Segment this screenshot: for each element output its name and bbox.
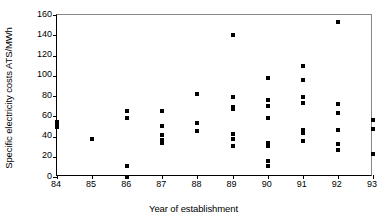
data-point [301, 64, 305, 68]
x-axis-tick-label: 93 [360, 180, 384, 189]
y-axis-tick-mark [53, 56, 57, 57]
y-axis-tick-label: 60 [24, 111, 52, 120]
data-point [231, 107, 235, 111]
data-point [231, 144, 235, 148]
data-point [160, 124, 164, 128]
y-axis-tick-mark [53, 137, 57, 138]
data-point [231, 33, 235, 37]
x-axis-tick-label: 91 [290, 180, 314, 189]
data-point [125, 164, 129, 168]
data-point [266, 76, 270, 80]
scatter-chart: Specific electricity costs ATS/MWh 02040… [0, 0, 387, 223]
data-point [371, 152, 375, 156]
y-axis-tick-label: 40 [24, 131, 52, 140]
data-point [195, 129, 199, 133]
y-axis-title: Specific electricity costs ATS/MWh [2, 8, 16, 188]
data-point [231, 137, 235, 141]
data-point [336, 111, 340, 115]
x-axis-tick-label: 92 [325, 180, 349, 189]
data-point [231, 95, 235, 99]
y-axis-tick-label: 140 [24, 30, 52, 39]
data-point [55, 125, 59, 129]
y-axis-tick-label: 160 [24, 10, 52, 19]
x-axis-tick-labels: 84858687888990919293 [56, 180, 376, 192]
x-axis-tick-label: 84 [44, 180, 68, 189]
y-axis-tick-mark [53, 15, 57, 16]
data-point [90, 137, 94, 141]
data-point [160, 109, 164, 113]
y-axis-tick-label: 80 [24, 91, 52, 100]
x-axis-tick-label: 88 [184, 180, 208, 189]
data-point [301, 139, 305, 143]
x-axis-tick-label: 90 [255, 180, 279, 189]
data-point [195, 92, 199, 96]
data-point [266, 164, 270, 168]
x-axis-title: Year of establishment [0, 203, 387, 214]
x-axis-tick-label: 89 [220, 180, 244, 189]
x-axis-tick-label: 86 [114, 180, 138, 189]
y-axis-tick-mark [53, 96, 57, 97]
y-axis-tick-mark [53, 157, 57, 158]
y-axis-tick-label: 120 [24, 50, 52, 59]
data-point [371, 118, 375, 122]
data-point [160, 141, 164, 145]
data-point [125, 116, 129, 120]
data-point [301, 101, 305, 105]
data-point [266, 116, 270, 120]
data-point [371, 127, 375, 131]
x-axis-tick-label: 85 [79, 180, 103, 189]
plot-area [56, 14, 372, 176]
data-point [266, 104, 270, 108]
data-point [266, 98, 270, 102]
y-axis-tick-mark [53, 116, 57, 117]
data-point [336, 142, 340, 146]
y-axis-tick-label: 20 [24, 151, 52, 160]
data-point [266, 144, 270, 148]
data-point [301, 131, 305, 135]
y-axis-tick-mark [53, 35, 57, 36]
data-point [336, 102, 340, 106]
x-axis-tick-label: 87 [149, 180, 173, 189]
data-point [336, 148, 340, 152]
data-point [301, 95, 305, 99]
data-point [301, 78, 305, 82]
data-point [125, 109, 129, 113]
data-point [266, 159, 270, 163]
data-point [336, 20, 340, 24]
y-axis-tick-label: 100 [24, 70, 52, 79]
y-axis-tick-mark [53, 76, 57, 77]
data-point [195, 121, 199, 125]
y-axis-tick-labels: 020406080100120140160 [22, 0, 52, 223]
data-point [336, 128, 340, 132]
